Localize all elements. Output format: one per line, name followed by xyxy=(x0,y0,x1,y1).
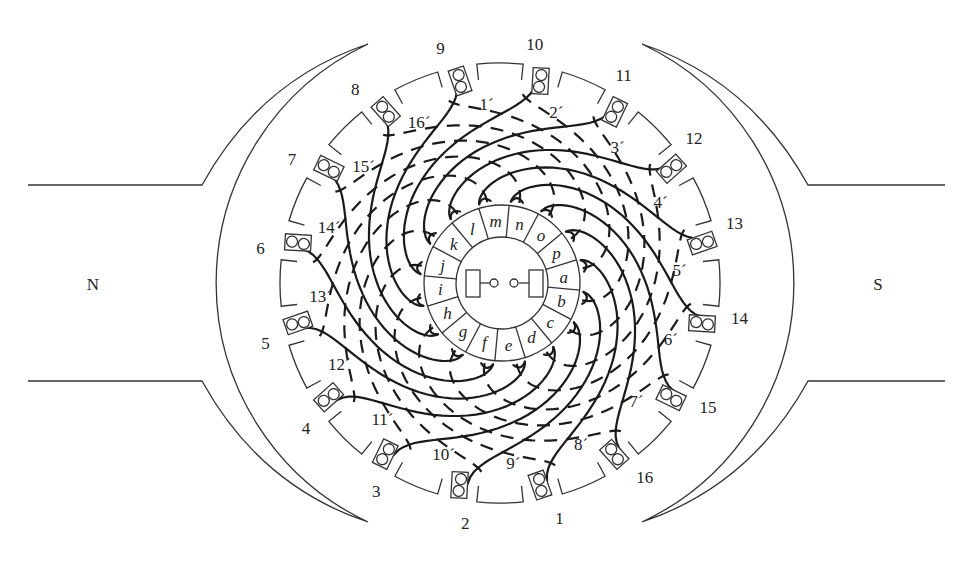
slot-8 xyxy=(370,95,402,129)
bottom-conductor-label: 15´ xyxy=(352,157,375,176)
slot-number-label: 2 xyxy=(461,514,470,533)
commutator-segment-divider xyxy=(495,329,498,361)
bottom-conductor-label: 11´ xyxy=(371,410,393,429)
slot-number-label: 9 xyxy=(436,39,445,58)
bottom-conductor-label: 7´ xyxy=(629,392,643,411)
commutator-segment-f: f xyxy=(482,333,489,352)
commutator-segment-g: g xyxy=(459,322,468,341)
bottom-conductor-label: 2´ xyxy=(549,103,563,122)
left-brush xyxy=(466,270,480,297)
commutator-segment-divider xyxy=(516,327,525,358)
slot-number-label: 1 xyxy=(555,509,564,528)
slot-7 xyxy=(312,152,346,184)
slot-9 xyxy=(448,65,473,96)
bottom-conductor-label: 8´ xyxy=(574,435,588,454)
south-pole-label: S xyxy=(873,275,882,294)
commutator-segment-divider xyxy=(548,287,580,290)
slot-number-label: 4 xyxy=(302,419,311,438)
slot-number-label: 3 xyxy=(372,482,381,501)
bottom-conductor-label: 9´ xyxy=(506,454,520,473)
bottom-conductor-label: 5´ xyxy=(672,261,686,280)
slot-number-label: 7 xyxy=(288,150,297,169)
bottom-conductor-label: 12´ xyxy=(328,355,351,374)
commutator-segment-divider xyxy=(506,205,509,237)
slot-number-label: 14 xyxy=(731,309,749,328)
slot-number-label: 8 xyxy=(351,80,360,99)
right-brush xyxy=(529,270,543,297)
slot-3 xyxy=(369,437,401,471)
slot-number-label: 15 xyxy=(700,398,717,417)
slot-number-label: 5 xyxy=(261,334,270,353)
right-terminal xyxy=(510,279,518,287)
slot-6 xyxy=(282,230,313,255)
bottom-conductor-label: 6´ xyxy=(664,330,678,349)
commutator-segment-m: m xyxy=(489,212,501,231)
slot-number-label: 11 xyxy=(616,66,632,85)
diagram-canvas: NS abcdefghijklmnop 19´210´311´412´513´6… xyxy=(0,0,975,572)
bottom-conductor-label: 14´ xyxy=(318,218,341,237)
commutator-segment-n: n xyxy=(515,215,524,234)
commutator-segment-o: o xyxy=(537,226,546,245)
slot-16 xyxy=(598,437,630,471)
armature-windings xyxy=(301,82,703,484)
north-pole-label: N xyxy=(87,275,99,294)
slot-number-label: 10 xyxy=(526,35,543,54)
commutator-segment-a: a xyxy=(559,268,568,287)
north-pole-shoe xyxy=(28,44,368,522)
commutator-segment-divider xyxy=(424,276,456,279)
commutator-segment-c: c xyxy=(546,313,554,332)
commutator-outer-ring xyxy=(424,205,580,361)
commutator-segment-divider xyxy=(466,324,481,352)
labels: 19´210´311´412´513´614´715´816´91´102´11… xyxy=(256,35,748,533)
bottom-conductor-label: 16´ xyxy=(408,113,431,132)
slot-12 xyxy=(654,153,688,185)
bottom-conductor-label: 3´ xyxy=(610,138,624,157)
commutator-segment-p: p xyxy=(551,244,561,263)
commutator-segment-d: d xyxy=(527,328,536,347)
commutator: abcdefghijklmnop xyxy=(424,205,580,361)
commutator-inner-ring xyxy=(456,237,548,329)
slot-14 xyxy=(686,311,717,336)
slot-number-label: 13 xyxy=(726,214,743,233)
slot-number-label: 6 xyxy=(256,239,265,258)
commutator-segment-j: j xyxy=(438,256,445,275)
left-terminal xyxy=(490,279,498,287)
slot-number-label: 16 xyxy=(636,468,653,487)
armature-winding-diagram: NS abcdefghijklmnop 19´210´311´412´513´6… xyxy=(0,0,975,572)
commutator-segment-k: k xyxy=(450,235,458,254)
slot-10 xyxy=(528,65,553,96)
commutator-segment-divider xyxy=(479,209,488,240)
slot-2 xyxy=(447,469,472,500)
commutator-segment-i: i xyxy=(438,280,443,299)
commutator-segment-e: e xyxy=(505,336,513,355)
slot-4 xyxy=(312,381,346,413)
bottom-conductor-label: 1´ xyxy=(480,95,494,114)
slot-15 xyxy=(654,382,688,414)
bottom-conductor-label: 10´ xyxy=(432,445,455,464)
south-pole-shoe xyxy=(642,44,945,522)
commutator-segment-b: b xyxy=(557,292,566,311)
slot-number-label: 12 xyxy=(685,129,702,148)
commutator-segment-h: h xyxy=(443,304,452,323)
bottom-conductor-label: 13´ xyxy=(309,287,332,306)
slot-13 xyxy=(686,231,717,256)
commutator-segment-l: l xyxy=(470,220,475,239)
slot-5 xyxy=(282,311,313,336)
bottom-conductor-label: 4´ xyxy=(654,193,668,212)
slot-11 xyxy=(599,95,631,129)
slot-1 xyxy=(528,469,553,500)
